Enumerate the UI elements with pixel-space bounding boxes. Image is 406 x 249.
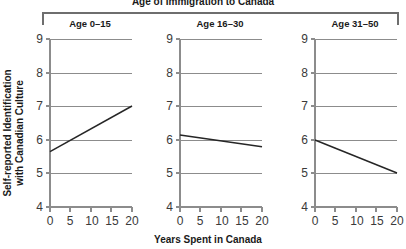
panel-title-1: Age 0–15 xyxy=(69,18,111,29)
y-tick-label-9: 9 xyxy=(36,32,43,46)
chart-figure: Age of Immigration to Canada Self-report… xyxy=(0,0,406,249)
y-tick-label-7: 7 xyxy=(301,99,308,113)
x-axis-title: Years Spent in Canada xyxy=(154,234,262,245)
y-tick-label-9: 9 xyxy=(301,32,308,46)
x-tick-label-10: 10 xyxy=(350,214,364,228)
x-tick-label-15: 15 xyxy=(235,214,249,228)
y-tick-label-4: 4 xyxy=(166,200,173,214)
x-tick-label-10: 10 xyxy=(215,214,229,228)
x-tick-label-20: 20 xyxy=(255,214,269,228)
y-tick-label-5: 5 xyxy=(36,166,43,180)
x-tick-label-15: 15 xyxy=(105,214,119,228)
y-tick-label-6: 6 xyxy=(166,133,173,147)
x-tick-label-0: 0 xyxy=(177,214,184,228)
y-tick-label-6: 6 xyxy=(301,133,308,147)
y-tick-label-8: 8 xyxy=(166,66,173,80)
x-tick-label-20: 20 xyxy=(125,214,139,228)
x-tick-label-0: 0 xyxy=(47,214,54,228)
y-tick-label-6: 6 xyxy=(36,133,43,147)
panel-title-3: Age 31–50 xyxy=(331,18,378,29)
panel-age-0-15: Age 0–15 9 8 7 6 5 4 xyxy=(36,18,139,228)
x-tick-label-10: 10 xyxy=(85,214,99,228)
panel-title-2: Age 16–30 xyxy=(196,18,243,29)
y-axis-title-line2: with Canadian Culture xyxy=(14,80,25,187)
data-line-panel-1 xyxy=(50,106,132,152)
y-tick-label-7: 7 xyxy=(36,99,43,113)
x-tick-label-0: 0 xyxy=(312,214,319,228)
data-line-panel-2 xyxy=(180,135,262,147)
chart-main-title: Age of Immigration to Canada xyxy=(132,0,275,7)
x-tick-label-5: 5 xyxy=(197,214,204,228)
y-axis-title: Self-reported Identification with Canadi… xyxy=(2,69,25,196)
x-tick-label-5: 5 xyxy=(332,214,339,228)
panel-age-16-30: Age 16–30 9 8 7 6 5 4 0 xyxy=(166,18,269,228)
panel-age-31-50: Age 31–50 9 8 7 6 5 4 0 xyxy=(301,18,404,228)
y-tick-label-8: 8 xyxy=(36,66,43,80)
y-tick-label-4: 4 xyxy=(301,200,308,214)
y-tick-label-5: 5 xyxy=(301,166,308,180)
y-tick-label-5: 5 xyxy=(166,166,173,180)
y-tick-label-7: 7 xyxy=(166,99,173,113)
y-tick-label-4: 4 xyxy=(36,200,43,214)
x-tick-label-20: 20 xyxy=(390,214,404,228)
x-tick-label-15: 15 xyxy=(370,214,384,228)
y-axis-title-line1: Self-reported Identification xyxy=(2,69,13,196)
y-tick-label-9: 9 xyxy=(166,32,173,46)
y-tick-label-8: 8 xyxy=(301,66,308,80)
x-tick-label-5: 5 xyxy=(67,214,74,228)
data-line-panel-3 xyxy=(315,140,397,173)
